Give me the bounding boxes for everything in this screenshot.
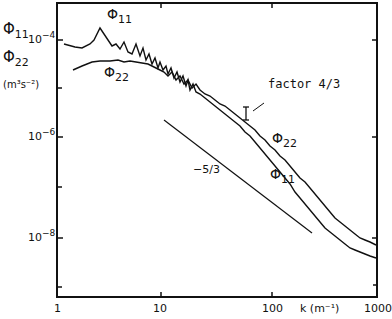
slope-label: −5/3 xyxy=(193,163,220,176)
annotation-phi22-right: Φ22 xyxy=(272,130,297,150)
xtick-label-10: 10 xyxy=(153,302,167,315)
ylabel-units: (m³s⁻²) xyxy=(3,79,39,90)
xtick-label-1000: 1000 xyxy=(364,302,392,315)
plot-frame xyxy=(57,3,377,297)
error-bar-glyph xyxy=(243,103,264,120)
ylabel-phi22: Φ22 xyxy=(3,48,29,69)
ytick-label-1e-4: 10−4 xyxy=(28,30,55,46)
ytick-label-1e-6: 10−6 xyxy=(28,127,55,143)
ytick-label-1e-8: 10−8 xyxy=(28,228,55,244)
annotation-phi11-right: Φ11 xyxy=(270,166,295,186)
annotation-phi22-top: Φ22 xyxy=(104,64,129,84)
annotation-phi11-top: Φ11 xyxy=(107,6,132,26)
factor-label: factor 4/3 xyxy=(268,77,340,91)
phi11-curve xyxy=(64,28,376,258)
xlabel: k (m⁻¹) xyxy=(300,302,339,315)
ylabel-phi11: Φ11 xyxy=(3,20,29,41)
xtick-label-1: 1 xyxy=(54,302,61,315)
x-ticks xyxy=(161,3,272,297)
xtick-label-100: 100 xyxy=(262,302,283,315)
